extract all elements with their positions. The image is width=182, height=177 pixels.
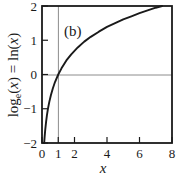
panel-label: (b): [64, 23, 82, 40]
x-axis-title: x: [99, 160, 107, 176]
x-tick-label: 4: [104, 146, 111, 161]
ylabel-paren-close-2: ): [5, 33, 22, 38]
x-tick-label: 8: [169, 146, 176, 161]
figure-panel-b: 012468 −2−1012 (b) x loge(x) = ln(x): [0, 0, 182, 177]
x-tick-label: 0: [39, 146, 46, 161]
log-plot-svg: 012468 −2−1012 (b) x loge(x) = ln(x): [0, 0, 182, 177]
y-axis-title-group: loge(x) = ln(x): [5, 33, 23, 118]
y-axis-title: loge(x) = ln(x): [5, 33, 23, 118]
y-tick-label: 2: [31, 0, 38, 14]
ylabel-equals-ln: = ln: [5, 49, 21, 77]
ylabel-log: log: [5, 98, 21, 118]
y-tick-label: 1: [31, 33, 38, 48]
x-tick-label: 2: [71, 146, 78, 161]
y-tick-label: 0: [31, 67, 38, 82]
y-tick-label: −1: [23, 101, 37, 116]
x-tick-label: 6: [136, 146, 143, 161]
x-tick-label: 1: [55, 146, 62, 161]
y-tick-label: −2: [23, 136, 37, 151]
